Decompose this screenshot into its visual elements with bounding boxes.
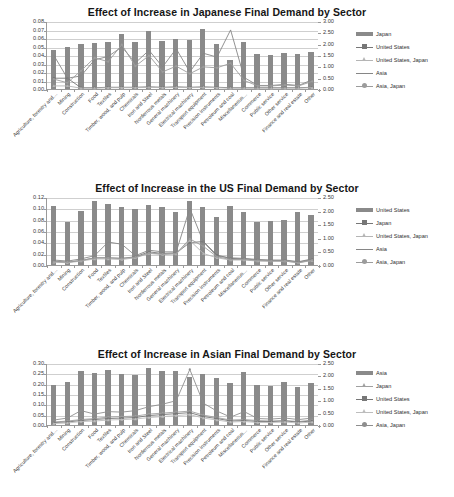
- line-marker: [53, 78, 55, 80]
- left-axis-tick: 0.02: [33, 70, 44, 76]
- right-axis-tick: 0.50: [323, 411, 334, 417]
- x-tick-mark: [319, 425, 320, 428]
- left-axis: 0.000.010.020.030.040.050.060.070.08: [20, 22, 44, 90]
- legend-marker-icon: [362, 220, 367, 225]
- legend-item[interactable]: United States, Japan: [356, 54, 428, 67]
- line-marker: [121, 257, 123, 259]
- line-marker: [121, 44, 123, 46]
- legend-label: Asia: [376, 70, 387, 76]
- x-axis-labels: Agriculture, forestry and…MiningConstruc…: [47, 89, 318, 147]
- legend-line-swatch-icon: [356, 409, 373, 416]
- right-axis-tick: 1.50: [323, 53, 334, 59]
- line-marker: [311, 80, 313, 82]
- line-marker: [80, 410, 82, 412]
- right-axis-tick: 1.00: [323, 236, 334, 242]
- chart-body: 0.000.010.020.030.040.050.060.070.080.00…: [0, 18, 454, 150]
- line-marker: [66, 417, 68, 419]
- x-tick-mark: [319, 89, 320, 92]
- line-marker: [230, 416, 232, 418]
- right-axis-tick: 0.00: [323, 263, 334, 269]
- left-axis-tick: 0.04: [33, 241, 44, 247]
- legend-item[interactable]: Asia: [356, 243, 428, 256]
- legend-item[interactable]: Asia, Japan: [356, 419, 428, 432]
- right-axis-tick: 2.00: [323, 374, 334, 380]
- line-marker: [94, 413, 96, 415]
- legend-item[interactable]: United States: [356, 204, 428, 217]
- legend-item[interactable]: Asia: [356, 367, 428, 380]
- line-marker: [202, 245, 204, 247]
- line-marker: [175, 400, 177, 402]
- legend-marker-icon: [362, 383, 366, 387]
- legend-label: United States, Japan: [376, 233, 428, 239]
- chart-title: Effect of Increase in the US Final Deman…: [0, 168, 454, 194]
- left-axis-tick: 0.25: [33, 372, 44, 378]
- line-asia: [54, 30, 312, 86]
- line-marker: [134, 256, 136, 258]
- line-marker: [270, 260, 272, 262]
- line-marker: [175, 252, 177, 254]
- left-axis-tick: 0.04: [33, 53, 44, 59]
- right-axis-tick: 1.50: [323, 222, 334, 228]
- left-axis-tick: 0.15: [33, 392, 44, 398]
- legend-item[interactable]: Japan: [356, 217, 428, 230]
- line-marker: [148, 252, 150, 254]
- line-united-states-japan: [54, 240, 312, 262]
- legend-marker-icon: [362, 83, 367, 88]
- line-marker: [257, 417, 259, 419]
- legend-label: Japan: [376, 383, 391, 389]
- line-series-layer: [47, 22, 319, 90]
- line-marker: [189, 238, 191, 240]
- left-axis-tick: 0.05: [33, 413, 44, 419]
- chart-us-final-demand: Effect of Increase in the US Final Deman…: [0, 168, 454, 340]
- line-series-layer: [47, 198, 319, 266]
- legend: United StatesJapanUnited States, JapanAs…: [356, 204, 428, 269]
- legend-line-swatch-icon: [356, 383, 373, 390]
- line-marker: [216, 410, 218, 412]
- plot-area: Agriculture, forestry and…MiningConstruc…: [46, 364, 318, 426]
- left-axis-tick: 0.06: [33, 229, 44, 235]
- legend-item[interactable]: United States: [356, 393, 428, 406]
- line-united-states-japan: [54, 86, 312, 88]
- right-axis: 0.000.501.001.502.002.503.00: [323, 22, 347, 90]
- chart-title: Effect of Increase in Japanese Final Dem…: [0, 0, 454, 18]
- legend-item[interactable]: Asia, Japan: [356, 80, 428, 93]
- right-axis-tick: 2.50: [323, 31, 334, 37]
- legend: AsiaJapanUnited StatesUnited States, Jap…: [356, 367, 428, 432]
- line-marker: [284, 84, 286, 86]
- line-marker: [243, 79, 245, 81]
- left-axis-tick: 0.30: [33, 361, 44, 367]
- line-marker: [148, 54, 150, 56]
- right-axis-tick: 2.50: [323, 361, 334, 367]
- legend-item[interactable]: United States, Japan: [356, 230, 428, 243]
- legend-line-swatch-icon: [356, 70, 373, 77]
- left-axis-tick: 0.10: [33, 207, 44, 213]
- line-marker: [162, 71, 164, 73]
- line-marker: [311, 417, 313, 419]
- legend-marker-icon: [362, 57, 366, 61]
- legend-bar-swatch-icon: [356, 31, 373, 38]
- legend-item[interactable]: United States, Japan: [356, 406, 428, 419]
- legend-line-swatch-icon: [356, 83, 373, 90]
- legend-item[interactable]: Asia, Japan: [356, 256, 428, 269]
- left-axis-tick: 0.08: [33, 19, 44, 25]
- right-axis-tick: 1.00: [323, 398, 334, 404]
- right-axis-tick: 0.00: [323, 87, 334, 93]
- legend-item[interactable]: Japan: [356, 28, 428, 41]
- legend-line-swatch-icon: [356, 57, 373, 64]
- legend-line-swatch-icon: [356, 396, 373, 403]
- line-marker: [134, 65, 136, 67]
- left-axis-tick: 0.00: [33, 87, 44, 93]
- right-axis-tick: 0.50: [323, 76, 334, 82]
- legend-line-swatch-icon: [356, 422, 373, 429]
- legend-label: United States, Japan: [376, 57, 428, 63]
- figure-page: Effect of Increase in Japanese Final Dem…: [0, 0, 454, 497]
- left-axis-tick: 0.08: [33, 218, 44, 224]
- line-marker: [298, 85, 300, 87]
- legend-label: Asia: [376, 370, 387, 376]
- x-axis-labels: Agriculture, forestry and…MiningConstruc…: [47, 425, 318, 483]
- legend-marker-icon: [362, 233, 366, 237]
- legend-line-swatch-icon: [356, 233, 373, 240]
- legend-item[interactable]: United States: [356, 41, 428, 54]
- legend-item[interactable]: Japan: [356, 380, 428, 393]
- legend-item[interactable]: Asia: [356, 67, 428, 80]
